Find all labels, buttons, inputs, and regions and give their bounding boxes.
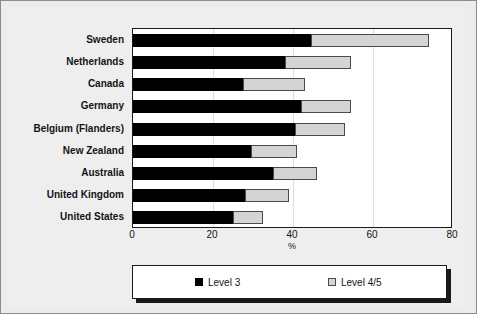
- bar-segment-level-45: [243, 78, 305, 91]
- category-label: Australia: [81, 166, 124, 179]
- bar-segment-level-3: [133, 167, 273, 180]
- category-label: New Zealand: [63, 144, 124, 157]
- x-tick-label: 20: [206, 229, 217, 240]
- bar-row: [133, 56, 453, 69]
- bar-row: [133, 167, 453, 180]
- chart-legend: Level 3 Level 4/5: [132, 265, 447, 299]
- category-label: Belgium (Flanders): [33, 122, 124, 135]
- x-axis-title: %: [132, 241, 452, 251]
- category-label: United Kingdom: [47, 188, 124, 201]
- category-label: Canada: [88, 77, 124, 90]
- x-tick-label: 0: [129, 229, 135, 240]
- category-label: Germany: [81, 99, 124, 112]
- bar-row: [133, 123, 453, 136]
- light-gray-square-icon: [328, 278, 336, 286]
- category-label: Sweden: [86, 33, 124, 46]
- bar-segment-level-3: [133, 78, 243, 91]
- bar-row: [133, 189, 453, 202]
- bar-segment-level-3: [133, 34, 311, 47]
- bar-segment-level-3: [133, 56, 285, 69]
- bar-row: [133, 100, 453, 113]
- x-tick-label: 60: [366, 229, 377, 240]
- bar-row: [133, 211, 453, 224]
- bar-segment-level-45: [301, 100, 351, 113]
- legend-label: Level 3: [208, 277, 240, 288]
- bar-segment-level-45: [233, 211, 263, 224]
- bar-segment-level-45: [285, 56, 351, 69]
- bar-segment-level-3: [133, 189, 245, 202]
- figure-panel: SwedenNetherlandsCanadaGermanyBelgium (F…: [7, 7, 470, 307]
- legend-item-level-3[interactable]: Level 3: [195, 277, 240, 288]
- bar-segment-level-45: [273, 167, 317, 180]
- black-square-icon: [195, 278, 203, 286]
- bar-row: [133, 34, 453, 47]
- bar-segment-level-45: [295, 123, 345, 136]
- bar-segment-level-3: [133, 211, 233, 224]
- x-tick-label: 40: [286, 229, 297, 240]
- x-tick-label: 80: [446, 229, 457, 240]
- legend-item-level-45[interactable]: Level 4/5: [328, 277, 382, 288]
- y-axis-category-labels: SwedenNetherlandsCanadaGermanyBelgium (F…: [7, 28, 128, 228]
- category-label: United States: [60, 210, 124, 223]
- bar-segment-level-3: [133, 100, 301, 113]
- bar-row: [133, 145, 453, 158]
- bar-segment-level-45: [251, 145, 297, 158]
- category-label: Netherlands: [66, 55, 124, 68]
- bar-segment-level-3: [133, 123, 295, 136]
- bar-segment-level-3: [133, 145, 251, 158]
- bar-row: [133, 78, 453, 91]
- bar-segment-level-45: [311, 34, 429, 47]
- chart-figure: SwedenNetherlandsCanadaGermanyBelgium (F…: [0, 0, 477, 314]
- plot-area: [132, 28, 452, 228]
- bar-segment-level-45: [245, 189, 289, 202]
- legend-label: Level 4/5: [341, 277, 382, 288]
- bar-series-container: [133, 29, 451, 227]
